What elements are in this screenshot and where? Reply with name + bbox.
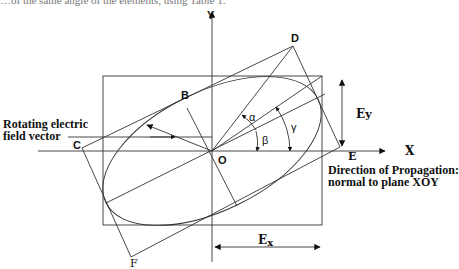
x-axis-label: X xyxy=(405,145,414,157)
point-f-label: F xyxy=(130,258,138,269)
angle-alpha-label: α xyxy=(249,112,255,123)
point-e-label: E xyxy=(348,151,356,162)
angle-beta-arc xyxy=(256,131,258,151)
ex-main: E xyxy=(258,233,267,247)
point-b-label: B xyxy=(181,90,189,101)
line-o-to-d xyxy=(212,46,293,151)
origin-label: O xyxy=(218,155,227,166)
angle-gamma-arc xyxy=(276,107,290,151)
propagation-line2: normal to plane XOY xyxy=(328,176,459,188)
ey-label: Ey xyxy=(356,108,372,120)
ey-subscript: y xyxy=(365,108,371,121)
y-axis-label: Y xyxy=(207,10,214,21)
ex-subscript: x xyxy=(267,237,273,248)
rotating-vector-line2: field vector xyxy=(3,130,88,142)
point-d-label: D xyxy=(291,33,299,44)
rotating-vector-annotation: Rotating electric field vector xyxy=(3,118,88,142)
propagation-annotation: Direction of Propagation: normal to plan… xyxy=(328,164,459,188)
angle-beta-label: β xyxy=(262,135,268,146)
ex-label: Ex xyxy=(258,234,273,246)
ey-main: E xyxy=(356,107,365,121)
angle-gamma-label: γ xyxy=(291,122,297,133)
